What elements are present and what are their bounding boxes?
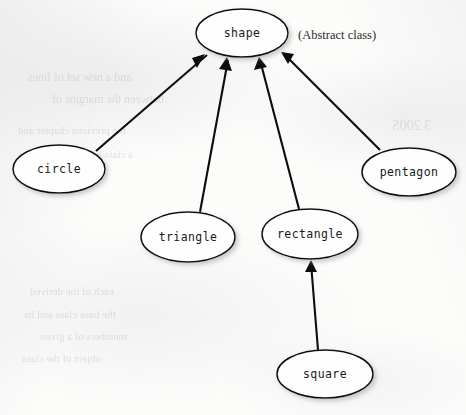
node-triangle[interactable]: triangle bbox=[141, 212, 235, 262]
node-rectangle[interactable]: rectangle bbox=[262, 209, 358, 259]
edges-group bbox=[96, 52, 380, 350]
node-square-label: square bbox=[303, 367, 347, 381]
figure-canvas: and a new set of linesbetween the margin… bbox=[0, 0, 466, 415]
node-shape-label: shape bbox=[224, 26, 261, 40]
node-square[interactable]: square bbox=[277, 350, 373, 398]
arrowhead-icon bbox=[219, 57, 232, 71]
edge-square-to-rectangle bbox=[305, 260, 318, 350]
node-pentagon-label: pentagon bbox=[380, 165, 439, 179]
node-shape[interactable]: shape bbox=[196, 9, 288, 57]
edge-rectangle-to-shape bbox=[254, 57, 299, 209]
edge-pentagon-to-shape bbox=[281, 52, 380, 150]
class-hierarchy-diagram: shape circle triangle rectangle pentagon bbox=[0, 0, 466, 415]
arrowhead-icon bbox=[254, 57, 267, 70]
edge-triangle-to-shape bbox=[200, 57, 232, 212]
node-pentagon[interactable]: pentagon bbox=[362, 148, 456, 196]
node-triangle-label: triangle bbox=[159, 230, 218, 244]
arrowhead-icon bbox=[305, 260, 317, 272]
nodes-group: shape circle triangle rectangle pentagon bbox=[13, 9, 456, 398]
node-circle-label: circle bbox=[37, 162, 81, 176]
edge-circle-to-shape bbox=[96, 54, 207, 151]
node-circle[interactable]: circle bbox=[13, 145, 105, 193]
node-rectangle-label: rectangle bbox=[277, 227, 343, 241]
abstract-class-note: (Abstract class) bbox=[298, 28, 376, 42]
